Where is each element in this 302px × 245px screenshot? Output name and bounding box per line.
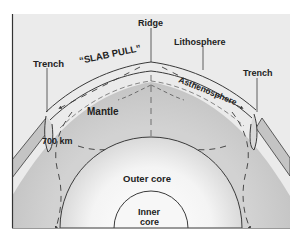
label-trench-right: Trench (243, 68, 273, 78)
label-outer-core: Outer core (123, 173, 171, 184)
label-inner-core-line2: core (140, 217, 159, 227)
label-trench-left: Trench (33, 58, 64, 69)
label-lithosphere: Lithosphere (174, 37, 226, 47)
mantle-convection-diagram: Trench “SLAB PULL” Ridge Lithosphere Tre… (0, 0, 302, 245)
label-700km: 700 km (42, 136, 73, 146)
label-mantle: Mantle (87, 106, 119, 117)
label-ridge: Ridge (138, 18, 163, 28)
label-inner-core-line1: Inner (138, 207, 161, 217)
